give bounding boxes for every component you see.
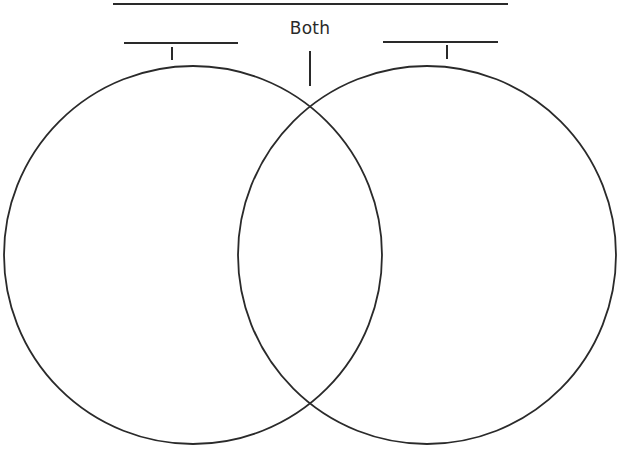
left-set-circle xyxy=(4,66,382,444)
right-set-circle xyxy=(238,66,616,444)
venn-diagram xyxy=(0,0,620,453)
both-label: Both xyxy=(270,18,350,38)
